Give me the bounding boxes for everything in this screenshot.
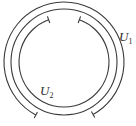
label-u1-main: U: [119, 29, 128, 44]
arc-u1: [4, 2, 124, 115]
label-u2: U2: [40, 84, 53, 100]
arc-u2: [19, 20, 109, 107]
label-u1: U1: [119, 30, 132, 46]
arc-u2-endpoint-ticks: [47, 16, 80, 23]
label-u2-sub: 2: [49, 91, 53, 100]
base-circle: [11, 9, 117, 115]
circle-cover-diagram: [0, 0, 136, 126]
label-u1-sub: 1: [128, 37, 132, 46]
label-u2-main: U: [40, 83, 49, 98]
